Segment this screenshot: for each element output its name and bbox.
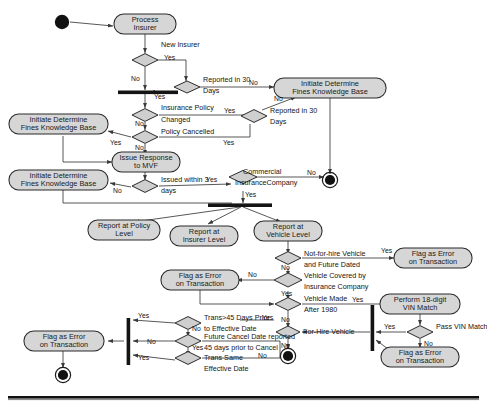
decision-label-reported30b-l2: Days [270,117,287,126]
decision-label-reported30b-l1: Reported in 30 [270,106,317,115]
decision-label-policycancelled: Policy Cancelled [161,127,214,136]
merge-bar-top [118,91,178,95]
activity-issue-response-to-mvf[interactable]: Issue Response to MVF [112,152,180,172]
activity-label-line2: VIN Match [403,303,438,312]
guard-reported30a-no: No [249,79,258,86]
guard-forhire-no: No [281,342,290,349]
guard-insurancepolicy-no: No [135,120,144,127]
guard-passvin-no: No [424,340,433,347]
guard-vehiclemade-yes: Yes [352,296,364,303]
activity-perform-vin-match[interactable]: Perform 18-digit VIN Match [380,294,460,314]
activity-label-line2: Fines Knowledge Base [21,179,97,188]
guard-transsame-no: No [258,352,267,359]
activity-initiate-determine-1[interactable]: Initiate Determine Fines Knowledge Base [274,78,386,98]
guard-newinsurer-yes: Yes [164,54,176,61]
activity-label-line2: to MVF [134,161,158,170]
guard-transsame-yes: Yes [138,354,150,361]
activity-diagram-canvas: Process Insurer Initiate Determine Fines… [0,0,487,410]
decision-label-insurancepolicy-l2: Changed [161,115,190,124]
decision-label-vehiclecovered-l1: Vehicle Covered by [304,271,366,280]
decision-label-notforhire-l2: and Future Dated [304,260,360,269]
activity-label-line2: Level [115,229,133,238]
guard-issued3-yes: Yes [206,176,218,183]
join-bar-left [127,318,131,365]
guard-reported30a-yes: Yes [154,93,166,100]
guard-reported30b-no: No [274,95,283,102]
guard-newinsurer-no: No [131,75,140,82]
decision-label-insurancepolicy-l1: Insurance Policy [161,103,214,112]
activity-initiate-determine-3[interactable]: Initiate Determine Fines Knowledge Base [9,170,108,190]
decision-label-futurecancel-l2: 45 days prior to Cancel [204,343,278,352]
decision-label-commercial-l2: InsuranceCompany [235,178,298,187]
fork-bar-middle [208,203,272,207]
activity-label-line2: on Transaction [40,340,88,349]
activity-label-line2: Insurer Level [183,235,226,244]
decision-label-new-insurer: New Insurer [161,40,200,49]
guard-issued3-no: No [113,187,122,194]
activity-label-line2: on Transaction [176,279,224,288]
decision-label-futurecancel-l1: Future Cancel Date reported [204,332,295,341]
activity-label-line2: on Transaction [409,257,457,266]
guard-passvin-yes: Yes [384,323,396,330]
join-bar-right [371,305,375,351]
decision-label-transsame-l1: Trans Same [204,353,243,362]
decision-label-vehiclemade-l1: Vehicle Made [304,294,347,303]
activity-report-at-vehicle-level[interactable]: Report at Vehicle Level [254,221,322,241]
activity-label-line2: Fines Knowledge Base [292,87,368,96]
activity-report-at-policy-level[interactable]: Report at Policy Level [88,220,160,240]
activity-label-line2: Fines Knowledge Base [21,123,97,132]
decision-label-issued3-l2: days [161,186,177,195]
guard-notforhire-no: No [281,264,290,271]
activity-label-line2: Vehicle Level [266,230,310,239]
decision-label-commercial-l1: Commercial [243,167,282,176]
guard-vehiclecovered-no: No [248,271,257,278]
guard-trans45-yes-right: Yes [262,314,274,321]
decision-label-notforhire-l1: Not-for-hire Vehicle [304,249,366,258]
guard-insurancepolicy-yes: Yes [224,107,236,114]
activity-report-at-insurer-level[interactable]: Report at Insurer Level [170,226,238,246]
activity-flag-as-error-4[interactable]: Flag as Error on Transaction [381,347,459,367]
activity-flag-as-error-1[interactable]: Flag as Error on Transaction [394,248,472,268]
initial-node [55,15,69,29]
bottom-rule [8,396,479,399]
activity-flag-as-error-2[interactable]: Flag as Error on Transaction [161,270,239,290]
guard-futurecancel-yes: Yes [192,344,204,351]
guard-policycancelled-yes: Yes [110,139,122,146]
guard-vehiclemade-no: No [281,316,290,323]
diagram-svg: Process Insurer Initiate Determine Fines… [0,0,487,410]
guard-policycancelled-yes2: Yes [223,139,235,146]
guard-commercial-yes: Yes [245,191,257,198]
guard-trans45-no: No [192,325,201,332]
guard-notforhire-yes: Yes [381,247,393,254]
decision-label-vehiclemade-l2: After 1980 [304,305,337,314]
activity-initiate-determine-2[interactable]: Initiate Determine Fines Knowledge Base [9,114,108,134]
guard-vehiclecovered-yes: Yes [281,290,293,297]
guard-trans45-yes: Yes [138,312,150,319]
activity-label-line2: on Transaction [396,356,444,365]
activity-label-line2: Insurer [133,23,157,32]
guard-futurecancel-no: No [147,338,156,345]
decision-label-forhire: For-Hire Vehicle [303,327,355,336]
decision-label-vehiclecovered-l2: Insurance Company [304,282,369,291]
guard-commercial-no: No [307,169,316,176]
decision-label-passvin: Pass VIN Match [436,322,487,331]
activity-flag-as-error-3[interactable]: Flag as Error on Transaction [24,331,104,351]
decision-label-reported30a-l1: Reported in 30 [203,75,250,84]
decision-label-trans45-l1: Trans>45 Days Prior [204,313,270,322]
bottom-rule-shadow [8,399,479,400]
decision-label-reported30a-l2: Days [203,86,220,95]
decision-label-issued3-l1: Issued within 3 [161,175,209,184]
decision-label-transsame-l2: Effective Date [204,364,249,373]
activity-process-insurer[interactable]: Process Insurer [114,14,176,34]
guard-policycancelled-no: No [135,144,144,151]
